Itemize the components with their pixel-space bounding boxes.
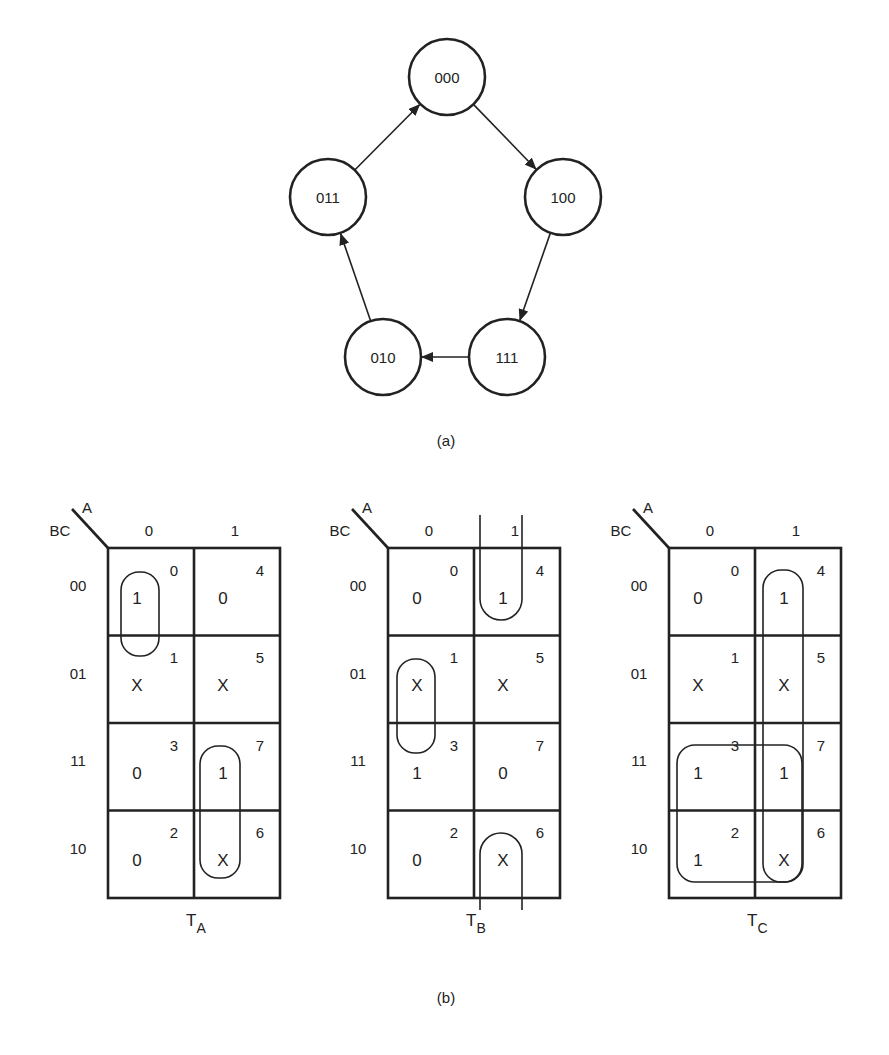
cell-value: X <box>778 851 789 870</box>
kmap-cell: X5 <box>217 649 264 695</box>
state-node: 010 <box>345 319 421 395</box>
cell-minterm-index: 0 <box>170 562 178 579</box>
cell-minterm-index: 3 <box>170 737 178 754</box>
column-variable-label: A <box>362 499 372 516</box>
cell-value: X <box>497 676 508 695</box>
cell-value: X <box>497 851 508 870</box>
kmap-cell: X5 <box>497 649 544 695</box>
kmap-cell: 02 <box>412 824 458 870</box>
row-label: 11 <box>70 752 86 769</box>
cell-value: 0 <box>218 589 227 608</box>
kmap-cell: 00 <box>693 562 739 608</box>
cell-minterm-index: 4 <box>536 562 544 579</box>
row-label: 01 <box>350 665 367 682</box>
group-loop <box>397 659 435 753</box>
state-node: 100 <box>525 159 601 235</box>
kmap-t-a: ABC01000111101004X1X5031702X6TA <box>50 499 280 937</box>
cell-value: 1 <box>132 589 141 608</box>
cell-minterm-index: 4 <box>817 562 825 579</box>
kmap-t-b: ABC01000111100014X1X5130702X6TB <box>330 499 560 937</box>
cell-minterm-index: 1 <box>450 649 458 666</box>
cell-minterm-index: 7 <box>536 737 544 754</box>
kmap-cell: 02 <box>132 824 178 870</box>
state-label: 010 <box>370 349 395 366</box>
kmap-title-main: T <box>747 911 757 930</box>
kmap-title-subscript: B <box>476 920 485 936</box>
cell-value: 0 <box>132 851 141 870</box>
row-label: 01 <box>631 665 648 682</box>
state-node: 111 <box>469 319 545 395</box>
row-label: 10 <box>350 840 367 857</box>
column-variable-label: A <box>643 499 653 516</box>
caption-a: (a) <box>437 432 455 449</box>
state-label: 011 <box>316 189 340 206</box>
cell-value: X <box>778 676 789 695</box>
column-label: 0 <box>706 522 714 539</box>
cell-value: 1 <box>498 589 507 608</box>
karnaugh-maps: ABC01000111101004X1X5031702X6TAABC010001… <box>50 499 841 937</box>
column-label: 1 <box>792 522 800 539</box>
cell-value: 1 <box>412 764 421 783</box>
kmap-title: TA <box>186 911 206 936</box>
kmap-cell: X1 <box>692 649 739 695</box>
kmap-cell: 17 <box>218 737 264 783</box>
kmap-title: TB <box>466 911 486 936</box>
kmap-title-main: T <box>186 911 196 930</box>
cell-minterm-index: 6 <box>256 824 264 841</box>
row-label: 01 <box>70 665 87 682</box>
caption-b: (b) <box>437 989 455 1006</box>
row-label: 10 <box>631 840 648 857</box>
cell-value: 0 <box>498 764 507 783</box>
transition-arrow <box>355 105 420 170</box>
kmap-cell: 03 <box>132 737 178 783</box>
cell-value: 0 <box>412 851 421 870</box>
column-label: 1 <box>511 522 519 539</box>
cell-minterm-index: 6 <box>536 824 544 841</box>
kmap-t-c: ABC01000111100014X1X5131712X6TC <box>611 499 841 937</box>
cell-value: 1 <box>779 764 788 783</box>
cell-value: 1 <box>779 589 788 608</box>
state-node: 000 <box>409 39 485 115</box>
cell-minterm-index: 4 <box>256 562 264 579</box>
transition-arrow <box>520 233 551 320</box>
row-variable-label: BC <box>50 522 71 539</box>
cell-minterm-index: 2 <box>450 824 458 841</box>
state-label: 100 <box>550 189 575 206</box>
state-label: 000 <box>434 69 459 86</box>
kmap-cell: 10 <box>132 562 178 608</box>
transition-arrow <box>473 104 535 169</box>
row-label: 11 <box>631 752 647 769</box>
cell-value: X <box>131 676 142 695</box>
state-node: 011 <box>290 159 366 235</box>
column-label: 0 <box>425 522 433 539</box>
cell-minterm-index: 1 <box>170 649 178 666</box>
row-label: 11 <box>350 752 366 769</box>
cell-value: 0 <box>412 589 421 608</box>
column-label: 1 <box>231 522 239 539</box>
cell-minterm-index: 7 <box>817 737 825 754</box>
row-variable-label: BC <box>611 522 632 539</box>
row-variable-label: BC <box>330 522 351 539</box>
kmap-title-main: T <box>466 911 476 930</box>
figure-canvas: 000100111010011 (a) ABC01000111101004X1X… <box>0 0 889 1055</box>
cell-value: 1 <box>693 851 702 870</box>
kmap-title-subscript: C <box>757 920 767 936</box>
cell-value: X <box>411 676 422 695</box>
state-label: 111 <box>496 349 519 366</box>
cell-value: 1 <box>693 764 702 783</box>
cell-value: 0 <box>693 589 702 608</box>
cell-minterm-index: 2 <box>731 824 739 841</box>
kmap-cell: 12 <box>693 824 739 870</box>
row-label: 10 <box>70 840 87 857</box>
cell-minterm-index: 0 <box>450 562 458 579</box>
cell-value: 1 <box>218 764 227 783</box>
kmap-cell: 00 <box>412 562 458 608</box>
cell-minterm-index: 7 <box>256 737 264 754</box>
state-diagram: 000100111010011 <box>290 39 601 395</box>
cell-minterm-index: 5 <box>817 649 825 666</box>
group-loop <box>121 572 159 656</box>
cell-minterm-index: 1 <box>731 649 739 666</box>
kmap-cell: 13 <box>412 737 458 783</box>
kmap-cell: 04 <box>218 562 264 608</box>
cell-minterm-index: 0 <box>731 562 739 579</box>
